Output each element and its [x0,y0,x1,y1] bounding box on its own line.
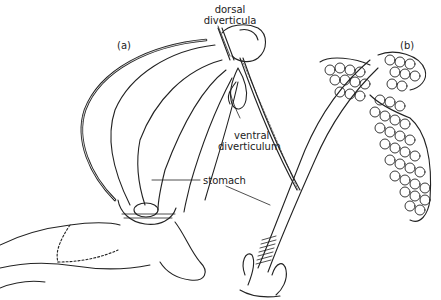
panel-a-label: (a) [117,40,131,51]
ventral-line1: ventral [218,130,281,141]
panel-b-label: (b) [400,40,414,51]
ventral-line2: diverticulum [218,141,281,152]
dorsal-line1: dorsal [200,4,260,15]
dorsal-diverticula-label: dorsal diverticula [200,4,260,26]
ventral-diverticulum-label: ventral diverticulum [218,130,281,152]
diagram-canvas: (a) (b) dorsal diverticula ventral diver… [0,0,441,300]
dorsal-line2: diverticula [200,15,260,26]
panel-a-drawing [0,25,300,288]
stomach-label: stomach [203,175,246,186]
panel-b-drawing [240,52,431,296]
